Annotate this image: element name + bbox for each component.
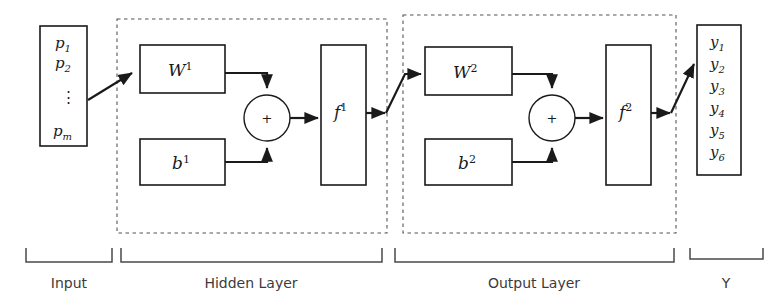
brace-hidden-layer xyxy=(121,248,382,262)
wire-output-to-result xyxy=(671,64,694,113)
label-hidden-layer: Hidden Layer xyxy=(204,275,297,291)
hidden-summation-symbol: + xyxy=(262,111,273,126)
wire-output-weight-to-sum xyxy=(512,74,552,88)
label-input: Input xyxy=(51,275,88,291)
diagram-canvas: p1 p2 ⋮ pm W1 b1 + f1 xyxy=(0,0,780,302)
label-result: Y xyxy=(721,275,731,291)
neural-network-diagram: p1 p2 ⋮ pm W1 b1 + f1 xyxy=(0,0,780,302)
output-transfer-box xyxy=(606,45,651,185)
hidden-transfer-box xyxy=(321,45,366,185)
wire-hidden-weight-to-sum xyxy=(225,73,267,88)
wire-hidden-bias-to-sum xyxy=(225,148,267,162)
output-summation-symbol: + xyxy=(547,111,558,126)
label-output-layer: Output Layer xyxy=(488,275,580,291)
wire-input-to-hidden xyxy=(88,73,132,100)
input-ellipsis: ⋮ xyxy=(61,88,76,106)
brace-result xyxy=(690,248,763,259)
brace-input xyxy=(26,248,112,262)
brace-output-layer xyxy=(395,248,674,262)
wire-output-bias-to-sum xyxy=(512,148,552,162)
